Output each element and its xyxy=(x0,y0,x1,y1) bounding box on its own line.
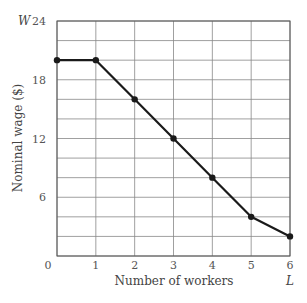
data-point xyxy=(248,214,254,220)
y-tick-label: 6 xyxy=(39,191,46,204)
data-point xyxy=(170,135,176,141)
y-axis-title: Nominal wage ($) xyxy=(11,84,25,193)
x-tick-label: 4 xyxy=(209,259,216,272)
x-tick-label: 3 xyxy=(170,259,177,272)
x-tick-label: 5 xyxy=(248,259,255,272)
x-tick-label: 1 xyxy=(92,259,99,272)
data-point xyxy=(287,233,293,239)
data-point xyxy=(54,57,60,63)
data-point xyxy=(131,96,137,102)
x-axis-variable: L xyxy=(285,274,294,288)
y-tick-label: 24 xyxy=(32,15,46,28)
axes: 01234566121824 xyxy=(32,15,294,272)
data-point xyxy=(209,174,215,180)
x-tick-label: 2 xyxy=(131,259,138,272)
line-chart: 01234566121824 W Nominal wage ($) Number… xyxy=(0,0,307,303)
y-axis-variable: W xyxy=(18,14,32,28)
y-tick-label: 18 xyxy=(32,74,46,87)
y-tick-label: 12 xyxy=(32,133,46,146)
x-tick-label: 6 xyxy=(287,259,294,272)
x-axis-title: Number of workers xyxy=(115,274,234,288)
data-point xyxy=(93,57,99,63)
x-tick-label: 0 xyxy=(45,259,52,272)
